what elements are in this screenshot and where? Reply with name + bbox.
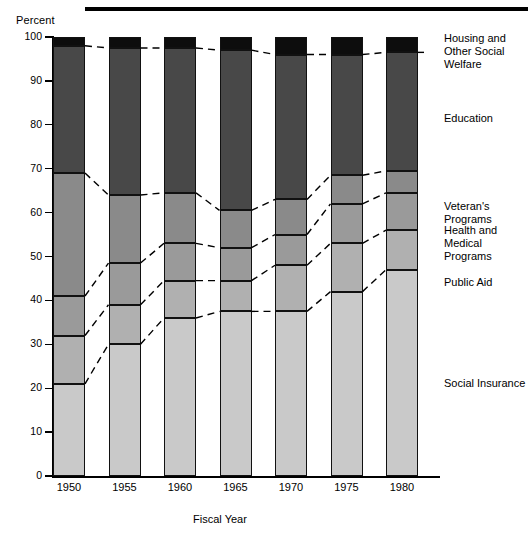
stacked-bar-1955[interactable] <box>109 37 141 476</box>
bar-segment-social-insurance[interactable] <box>275 311 307 476</box>
bar-segment-social-insurance[interactable] <box>331 292 363 476</box>
bar-segment-public-aid[interactable] <box>164 281 196 318</box>
connector-line <box>196 48 220 50</box>
bar-segment-veteran-s-programs[interactable] <box>275 199 307 234</box>
connector-line <box>196 243 220 247</box>
y-axis-tick-label: 90 <box>10 75 42 85</box>
bar-segment-education[interactable] <box>220 50 252 210</box>
x-axis-tick-label: 1955 <box>101 481 149 493</box>
bar-segment-health-and-medical-programs[interactable] <box>386 193 418 230</box>
y-axis-tick <box>45 300 53 301</box>
y-axis-tick <box>45 212 53 213</box>
x-axis-title: Fiscal Year <box>0 513 440 525</box>
bar-segment-veteran-s-programs[interactable] <box>331 175 363 204</box>
connector-line <box>141 193 165 195</box>
stacked-bar-1965[interactable] <box>220 37 252 476</box>
bar-segment-public-aid[interactable] <box>275 265 307 311</box>
y-axis-tick-label: 10 <box>10 426 42 436</box>
connector-line <box>363 193 387 204</box>
bar-segment-public-aid[interactable] <box>331 243 363 291</box>
y-axis-tick <box>45 80 53 81</box>
y-axis-tick-label: 60 <box>10 207 42 217</box>
connector-line <box>141 281 165 305</box>
stacked-bar-1970[interactable] <box>275 37 307 476</box>
bar-segment-health-and-medical-programs[interactable] <box>164 243 196 280</box>
bar-segment-health-and-medical-programs[interactable] <box>220 248 252 281</box>
connector-line <box>85 344 109 384</box>
stacked-bar-1960[interactable] <box>164 37 196 476</box>
y-axis-tick <box>45 431 53 432</box>
x-axis-tick-label: 1970 <box>267 481 315 493</box>
bar-segment-social-insurance[interactable] <box>53 384 85 476</box>
y-axis-title: Percent <box>16 14 55 26</box>
bar-segment-health-and-medical-programs[interactable] <box>331 204 363 244</box>
bar-segment-housing-and-other-social-welfare[interactable] <box>53 37 85 46</box>
bar-segment-education[interactable] <box>386 52 418 171</box>
y-axis-tick <box>45 124 53 125</box>
x-axis-tick-label: 1960 <box>156 481 204 493</box>
bar-segment-social-insurance[interactable] <box>220 311 252 476</box>
y-axis-tick-label: 80 <box>10 119 42 129</box>
y-axis-tick-label: 20 <box>10 382 42 392</box>
bar-segment-veteran-s-programs[interactable] <box>53 173 85 296</box>
y-axis-tick <box>45 256 53 257</box>
bar-segment-education[interactable] <box>331 55 363 176</box>
connector-line <box>307 204 331 235</box>
x-axis-tick-label: 1965 <box>212 481 260 493</box>
stacked-bar-1980[interactable] <box>386 37 418 476</box>
bar-segment-education[interactable] <box>275 55 307 200</box>
bar-segment-veteran-s-programs[interactable] <box>220 210 252 247</box>
bar-segment-veteran-s-programs[interactable] <box>109 195 141 263</box>
bar-segment-housing-and-other-social-welfare[interactable] <box>164 37 196 48</box>
connector-line <box>363 171 387 175</box>
bar-segment-public-aid[interactable] <box>109 305 141 345</box>
x-axis-tick-label: 1950 <box>45 481 93 493</box>
bar-segment-housing-and-other-social-welfare[interactable] <box>386 37 418 52</box>
y-axis-tick <box>45 36 53 37</box>
connector-line <box>252 265 276 280</box>
bar-segment-public-aid[interactable] <box>386 230 418 270</box>
connector-line <box>307 175 331 199</box>
bar-segment-education[interactable] <box>109 48 141 195</box>
bar-segment-housing-and-other-social-welfare[interactable] <box>220 37 252 50</box>
y-axis-tick <box>45 475 53 476</box>
bar-segment-health-and-medical-programs[interactable] <box>275 235 307 266</box>
connector-line <box>85 263 109 296</box>
y-axis-tick-label: 0 <box>10 470 42 480</box>
bar-segment-social-insurance[interactable] <box>164 318 196 476</box>
connector-line <box>85 173 109 195</box>
chart-root: Percent 0102030405060708090100 195019551… <box>0 0 528 554</box>
connector-line <box>307 243 331 265</box>
bar-segment-public-aid[interactable] <box>220 281 252 312</box>
x-axis-tick-label: 1980 <box>378 481 426 493</box>
bar-segment-social-insurance[interactable] <box>109 344 141 476</box>
connector-line <box>363 52 387 54</box>
connector-line <box>85 46 109 48</box>
bar-segment-health-and-medical-programs[interactable] <box>109 263 141 305</box>
stacked-bar-1950[interactable] <box>53 37 85 476</box>
bar-segment-veteran-s-programs[interactable] <box>164 193 196 243</box>
connector-line <box>85 305 109 336</box>
bar-segment-veteran-s-programs[interactable] <box>386 171 418 193</box>
legend-label-housing-and: Housing and Other Social Welfare <box>444 32 528 72</box>
y-axis-tick-label: 40 <box>10 294 42 304</box>
y-axis-tick <box>45 344 53 345</box>
connector-line <box>307 292 331 312</box>
connector-line <box>196 193 220 211</box>
bar-segment-social-insurance[interactable] <box>386 270 418 476</box>
stacked-bar-1975[interactable] <box>331 37 363 476</box>
legend-label-education: Education <box>444 112 493 125</box>
bar-segment-education[interactable] <box>53 46 85 173</box>
bar-segment-education[interactable] <box>164 48 196 193</box>
bar-segment-housing-and-other-social-welfare[interactable] <box>109 37 141 48</box>
bar-segment-health-and-medical-programs[interactable] <box>53 296 85 336</box>
bar-segment-housing-and-other-social-welfare[interactable] <box>275 37 307 55</box>
y-axis-tick-label: 30 <box>10 338 42 348</box>
legend-label-veteran-s-programs: Veteran's Programs <box>444 200 528 226</box>
bar-segment-housing-and-other-social-welfare[interactable] <box>331 37 363 55</box>
x-axis-line <box>52 476 440 478</box>
y-axis-tick-label: 100 <box>10 31 42 41</box>
connector-line <box>141 318 165 344</box>
bar-segment-public-aid[interactable] <box>53 336 85 384</box>
connector-line <box>363 230 387 243</box>
